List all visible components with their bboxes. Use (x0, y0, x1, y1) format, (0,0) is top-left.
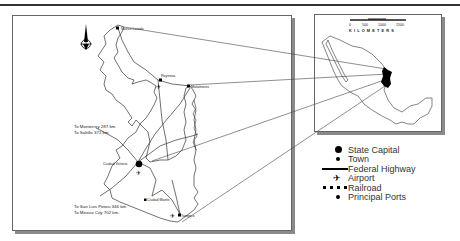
legend-item-railroad: Railroad (318, 183, 416, 193)
city-ciudad-mante: Ciudad Mante (144, 198, 169, 202)
legend-item-principal-ports: Principal Ports (318, 193, 416, 203)
airport-icon: ✈ (170, 213, 175, 219)
town-icon (336, 157, 340, 161)
svg-text:Reynosa: Reynosa (161, 74, 175, 78)
svg-text:500: 500 (362, 23, 368, 27)
mexico-outline (322, 36, 432, 124)
distance-san-luis-potosi: To San Luis Potosi 346 km. (74, 204, 127, 209)
state-outline (98, 25, 157, 126)
legend-item-state-capital: State Capital (318, 145, 416, 155)
highways (96, 28, 198, 214)
highway-icon (322, 168, 348, 171)
distance-saltillo: To Saltillo 372 km. (74, 130, 110, 135)
railroad-icon (323, 186, 347, 189)
city-matamoros: Matamoros (187, 85, 209, 89)
svg-text:0: 0 (349, 23, 351, 27)
svg-text:Matamoros: Matamoros (191, 85, 209, 89)
port-icon (336, 195, 340, 199)
svg-text:1000: 1000 (378, 23, 386, 27)
legend-item-town: Town (318, 155, 416, 165)
city-nuevo-laredo: Nuevo Laredo (116, 27, 144, 31)
svg-text:Nuevo Laredo: Nuevo Laredo (121, 27, 144, 31)
north-arrow-icon (80, 24, 92, 50)
state-capital-icon (335, 146, 342, 153)
highlighted-state (381, 67, 392, 88)
city-tampico: ✈ Tampico (170, 213, 194, 219)
airport-icon: ✈ (156, 84, 161, 90)
map-canvas: Nuevo Laredo Reynosa ✈ Matamoros Ciudad … (0, 0, 460, 241)
svg-text:KILOMETERS: KILOMETERS (349, 29, 396, 33)
airport-icon: ✈ (333, 174, 341, 183)
distance-mexico-city: To Mexico City 702 km. (74, 210, 119, 215)
distance-monterrey: To Monterrey 287 km. (74, 124, 116, 129)
coastline (193, 100, 197, 150)
legend: State Capital Town Federal Highway ✈ Air… (318, 145, 416, 202)
scale-bar: 0 500 1000 1500 KILOMETERS (349, 19, 406, 34)
svg-text:1500: 1500 (396, 23, 404, 27)
svg-text:Tampico: Tampico (181, 214, 194, 218)
airport-icon: ✈ (136, 170, 141, 176)
svg-text:Ciudad Mante: Ciudad Mante (147, 198, 169, 202)
legend-item-airport: ✈ Airport (318, 174, 416, 184)
svg-text:Ciudad Victoria: Ciudad Victoria (103, 162, 127, 166)
